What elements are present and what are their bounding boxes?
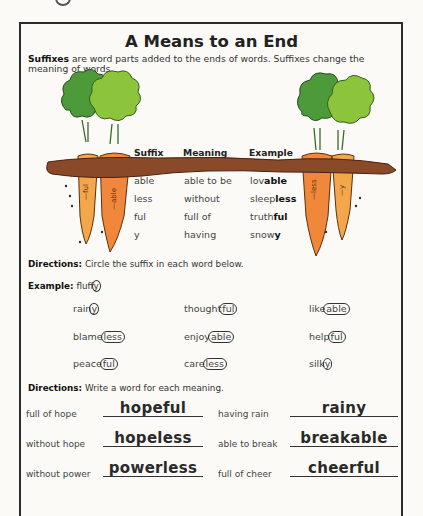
meaning-label: able to break [218, 439, 278, 449]
suffix-cell: able [134, 175, 154, 186]
example-cell: lovable [250, 175, 287, 186]
example-cell: sleepless [250, 193, 296, 204]
circled-suffix[interactable]: ful [219, 303, 237, 315]
answer-field[interactable]: hopeless [103, 430, 203, 447]
intro-paragraph: Suffixes are word parts added to the end… [28, 54, 398, 74]
worksheet-page: A Means to an End Suffixes are word part… [0, 0, 423, 516]
circled-suffix[interactable]: less [101, 331, 125, 343]
meaning-label: full of hope [26, 409, 77, 419]
example-suffix: less [275, 193, 296, 204]
circled-suffix[interactable]: y [89, 303, 99, 315]
example-cell: truthful [250, 211, 288, 222]
directions-text: Write a word for each meaning. [82, 383, 224, 393]
circle-example: Example: fluffy [28, 280, 101, 292]
circle-word: silky [309, 358, 332, 370]
answer-field[interactable]: cheerful [290, 460, 398, 477]
meaning-cell: having [184, 229, 216, 240]
example-suffix: y [275, 229, 281, 240]
circle-word: helpful [309, 331, 346, 343]
example-cell: snowy [250, 229, 281, 240]
circled-suffix: y [92, 280, 101, 292]
previous-page-fragment [55, 0, 71, 6]
circled-suffix[interactable]: y [323, 358, 333, 370]
answer-field[interactable]: rainy [290, 400, 398, 417]
intro-text: are word parts added to the ends of word… [28, 53, 364, 74]
circled-suffix[interactable]: less [203, 358, 227, 370]
circle-directions: Directions: Circle the suffix in each wo… [28, 259, 244, 269]
meaning-label: without power [26, 469, 91, 479]
meaning-cell: without [184, 193, 220, 204]
word-stem: help [309, 331, 330, 342]
circle-word: peaceful [73, 358, 118, 370]
word-stem: thought [184, 303, 221, 314]
answer-field[interactable]: breakable [290, 430, 398, 447]
word-stem: enjoy [184, 331, 210, 342]
circled-suffix[interactable]: ful [100, 358, 118, 370]
word-stem: peace [73, 358, 102, 369]
circled-suffix[interactable]: ful [328, 331, 346, 343]
suffix-cell: ful [134, 211, 146, 222]
circle-word: likeable [309, 303, 350, 315]
meaning-label: having rain [218, 409, 269, 419]
write-directions: Directions: Write a word for each meanin… [28, 383, 224, 393]
circle-word: blameless [73, 331, 125, 343]
table-header-suffix: Suffix [134, 147, 163, 158]
meaning-label: full of cheer [218, 469, 272, 479]
circle-word: enjoyable [184, 331, 234, 343]
suffix-cell: y [134, 229, 140, 240]
example-suffix: ful [273, 211, 287, 222]
meaning-label: without hope [26, 439, 85, 449]
example-label: Example: [28, 281, 74, 291]
directions-label: Directions: [28, 383, 82, 393]
meaning-cell: full of [184, 211, 211, 222]
example-stem: sleep [250, 193, 275, 204]
directions-label: Directions: [28, 259, 82, 269]
suffix-cell: less [134, 193, 152, 204]
answer-field[interactable]: hopeful [103, 400, 203, 417]
circle-word: thoughtful [184, 303, 237, 315]
answer-field[interactable]: powerless [103, 460, 203, 477]
example-stem: truth [250, 211, 273, 222]
word-stem: blame [73, 331, 103, 342]
meaning-cell: able to be [184, 175, 232, 186]
worksheet-title: A Means to an End [0, 32, 423, 51]
example-stem: lov [250, 175, 264, 186]
circled-suffix[interactable]: able [208, 331, 234, 343]
directions-text: Circle the suffix in each word below. [82, 259, 243, 269]
circle-word: rainy [73, 303, 99, 315]
word-stem: care [184, 358, 205, 369]
table-header-example: Example [249, 147, 293, 158]
circle-word: careless [184, 358, 227, 370]
example-suffix: able [264, 175, 287, 186]
circled-suffix[interactable]: able [323, 303, 349, 315]
table-header-meaning: Meaning [183, 147, 227, 158]
example-stem: snow [250, 229, 275, 240]
